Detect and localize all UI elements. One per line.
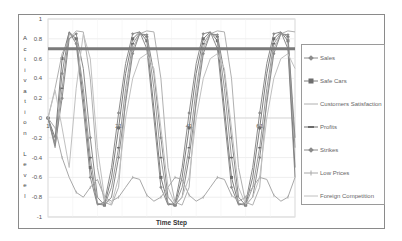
data-point bbox=[230, 186, 233, 189]
y-axis-label-char: i bbox=[24, 109, 25, 115]
chart-legend: Sales Safe Cars Customers Satisfaction P… bbox=[301, 44, 385, 205]
y-axis-label-char: n bbox=[23, 130, 26, 136]
y-axis-label-char: L bbox=[23, 151, 27, 157]
legend-label: Sales bbox=[320, 55, 335, 61]
legend-plus-marker-icon bbox=[304, 169, 318, 177]
data-point bbox=[272, 32, 275, 35]
y-tick-label: -1 bbox=[37, 214, 43, 220]
y-axis-label-char: t bbox=[24, 56, 26, 62]
y-tick-label: -0.8 bbox=[32, 194, 43, 200]
y-tick-label: -0.6 bbox=[32, 174, 43, 180]
data-point bbox=[159, 186, 162, 189]
legend-item-profits: Profits bbox=[304, 122, 337, 132]
y-axis-label-char: c bbox=[24, 46, 27, 52]
legend-item-low-prices: Low Prices bbox=[304, 168, 349, 178]
data-point bbox=[258, 126, 261, 129]
y-tick-label: 0.4 bbox=[34, 75, 43, 81]
data-point bbox=[131, 37, 134, 40]
legend-item-strikes: Strikes bbox=[304, 145, 338, 155]
data-point bbox=[187, 111, 190, 114]
y-tick-label: -0.2 bbox=[32, 135, 43, 141]
legend-label: Foreign Competition bbox=[320, 193, 374, 199]
y-tick-label: -0.4 bbox=[32, 155, 43, 161]
legend-square-marker-icon bbox=[304, 77, 318, 85]
y-axis-label-char: e bbox=[23, 161, 27, 167]
legend-label: Strikes bbox=[320, 147, 338, 153]
legend-label: Profits bbox=[320, 124, 337, 130]
y-axis-label-char: A bbox=[23, 35, 27, 41]
y-axis-label-char: v bbox=[24, 77, 27, 83]
data-point bbox=[131, 32, 134, 35]
y-axis-label-char: e bbox=[23, 182, 27, 188]
data-point bbox=[230, 176, 233, 179]
y-tick-label: 0.2 bbox=[34, 95, 43, 101]
legend-item-customers-satisfaction: Customers Satisfaction bbox=[304, 99, 382, 109]
legend-label: Low Prices bbox=[320, 170, 349, 176]
data-point bbox=[188, 126, 191, 129]
data-point bbox=[117, 126, 120, 129]
data-point bbox=[202, 37, 205, 40]
y-axis-label-char: v bbox=[24, 172, 27, 178]
y-tick-label: 0 bbox=[39, 115, 43, 121]
y-axis-label-char: l bbox=[24, 193, 25, 199]
data-point bbox=[202, 32, 205, 35]
legend-line-icon bbox=[304, 192, 318, 200]
data-point bbox=[258, 111, 261, 114]
data-point bbox=[272, 37, 275, 40]
legend-diamond-marker-icon bbox=[304, 146, 318, 154]
legend-label: Customers Satisfaction bbox=[320, 101, 382, 107]
legend-line-icon bbox=[304, 100, 318, 108]
legend-item-foreign-competition: Foreign Competition bbox=[304, 191, 374, 201]
y-tick-label: 1 bbox=[39, 16, 43, 22]
y-axis-label-char: i bbox=[24, 67, 25, 73]
y-axis-label-char: o bbox=[23, 119, 27, 125]
legend-diamond-marker-icon bbox=[304, 54, 318, 62]
x-axis-label: Time Step bbox=[156, 219, 187, 227]
y-axis-label-char: a bbox=[23, 88, 27, 94]
y-tick-label: 0.8 bbox=[34, 36, 43, 42]
legend-item-sales: Sales bbox=[304, 53, 335, 63]
legend-label: Safe Cars bbox=[320, 78, 347, 84]
legend-item-safe-cars: Safe Cars bbox=[304, 76, 347, 86]
y-tick-label: 0.6 bbox=[34, 56, 43, 62]
data-point bbox=[117, 111, 120, 114]
y-axis-label-char: t bbox=[24, 98, 26, 104]
data-point bbox=[89, 136, 92, 139]
legend-line-marker-icon bbox=[304, 123, 318, 131]
data-point bbox=[159, 176, 162, 179]
